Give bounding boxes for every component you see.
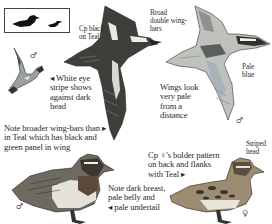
- note-dark-breast: Note dark breast, pale belly and ◂ pale …: [108, 184, 165, 212]
- note-cp-black-on-teal: Cp black on Teal: [79, 26, 104, 42]
- note-striped-head: Striped head: [246, 141, 266, 157]
- field-guide-page: Cp black on Teal Broad double wing- bars…: [0, 0, 272, 224]
- note-broader-wingbars: Note broader wing-bars than ▸ in Teal wh…: [4, 124, 106, 152]
- note-female-bolder-pattern: Cp ♀'s bolder pattern on back and flanks…: [148, 151, 220, 179]
- male-symbol-icon: ♂: [16, 202, 23, 211]
- male-symbol-icon: ♂: [236, 116, 243, 125]
- small-flying-male-illustration: [8, 48, 44, 94]
- standing-male-illustration: [12, 154, 114, 224]
- note-wings-look-pale: Wings look very pale from a distance: [160, 83, 199, 121]
- female-symbol-icon: ♀: [242, 209, 248, 218]
- male-symbol-icon: ♂: [30, 51, 37, 60]
- note-broad-double-wingbars: Broad double wing- bars: [150, 10, 187, 33]
- note-pale-blue: Pale blue: [242, 64, 254, 80]
- large-duck-silhouette-icon: [12, 15, 40, 27]
- small-duck-silhouette-icon: [48, 21, 62, 27]
- note-white-eye-stripe: ◂ White eye stripe shows against dark he…: [50, 74, 92, 112]
